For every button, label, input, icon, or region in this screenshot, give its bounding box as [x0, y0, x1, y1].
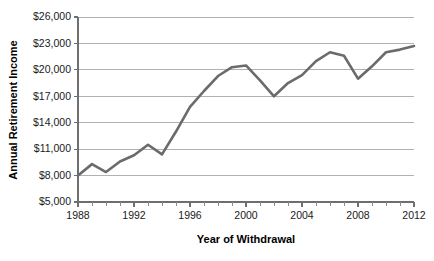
y-axis-title: Annual Retirement Income	[7, 40, 19, 179]
y-axis-tick-label: $14,000	[33, 116, 71, 128]
x-axis-tick-label: 2000	[234, 209, 258, 221]
y-axis-tick-label: $17,000	[33, 90, 71, 102]
income-line-series	[78, 46, 414, 176]
x-axis-tick-label: 1996	[178, 209, 202, 221]
y-axis-tick-label: $8,000	[39, 169, 71, 181]
x-axis-tick-label: 1988	[66, 209, 90, 221]
x-axis-tick-label: 2004	[290, 209, 314, 221]
chart-container: $26,000$23,000$20,000$17,000$14,000$11,0…	[0, 0, 434, 261]
y-axis-tick-label: $5,000	[39, 195, 71, 207]
y-axis-tick-label: $11,000	[34, 142, 71, 154]
x-axis-title: Year of Withdrawal	[197, 233, 295, 245]
grid-lines	[78, 17, 414, 176]
y-axis-tick-label: $20,000	[33, 63, 71, 75]
data-series-group	[78, 46, 414, 176]
y-axis-tick-label: $23,000	[33, 37, 71, 49]
x-axis-tick-labels: 1988199219962000200420082012	[66, 209, 426, 221]
x-axis-tick-label: 2012	[402, 209, 426, 221]
x-axis-tick-label: 1992	[122, 209, 146, 221]
x-axis-ticks	[78, 202, 414, 207]
x-axis-tick-label: 2008	[346, 209, 370, 221]
y-axis-tick-label: $26,000	[33, 10, 71, 22]
y-axis-tick-labels: $26,000$23,000$20,000$17,000$14,000$11,0…	[33, 10, 78, 207]
line-chart: $26,000$23,000$20,000$17,000$14,000$11,0…	[0, 0, 434, 261]
